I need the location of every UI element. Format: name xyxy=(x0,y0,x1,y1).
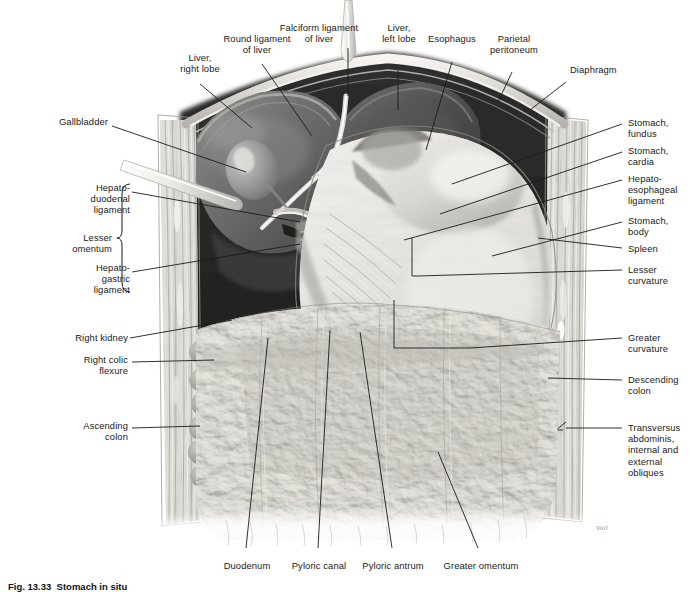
label-diaphragm: Diaphragm xyxy=(570,64,650,75)
label-lesser-omentum: Lesser omentum xyxy=(38,232,112,254)
label-stomach-cardia: Stomach, cardia xyxy=(628,145,694,167)
label-falciform-ligament-of-liver: Falciform ligament of liver xyxy=(254,22,384,44)
label-right-colic-flexure: Right colic flexure xyxy=(54,354,128,376)
label-gallbladder: Gallbladder xyxy=(30,116,108,127)
label-right-kidney: Right kidney xyxy=(48,332,128,343)
label-greater-omentum: Greater omentum xyxy=(434,560,528,571)
figure-caption-number: Fig. 13.33 xyxy=(8,581,51,592)
label-lesser-curvature: Lesser curvature xyxy=(628,264,694,286)
figure-caption: Fig. 13.33 Stomach in situ xyxy=(8,581,127,592)
figure-caption-title: Stomach in situ xyxy=(57,581,128,592)
label-duodenum: Duodenum xyxy=(208,560,286,571)
label-stomach-fundus: Stomach, fundus xyxy=(628,117,694,139)
label-transversus-abdominis: Transversus abdominis, internal and exte… xyxy=(628,422,695,478)
label-ascending-colon: Ascending colon xyxy=(54,420,128,442)
label-greater-curvature: Greater curvature xyxy=(628,332,694,354)
label-spleen: Spleen xyxy=(628,243,694,254)
label-pyloric-canal: Pyloric canal xyxy=(282,560,356,571)
stomach-in-situ-illustration xyxy=(0,0,695,592)
anatomical-figure: Liver, right lobe Round ligament of live… xyxy=(0,0,695,592)
label-hepatoduodenal-ligament: Hepato- duodenal ligament xyxy=(60,182,130,216)
label-pyloric-antrum: Pyloric antrum xyxy=(352,560,434,571)
label-descending-colon: Descending colon xyxy=(628,374,695,396)
label-stomach-body: Stomach, body xyxy=(628,215,694,237)
artist-signature: Voll xyxy=(596,524,608,532)
label-hepatogastric-ligament: Hepato- gastric ligament xyxy=(60,262,130,296)
label-parietal-peritoneum: Parietal peritoneum xyxy=(478,33,550,55)
label-hepatoesophageal-ligament: Hepato- esophageal ligament xyxy=(628,173,694,207)
